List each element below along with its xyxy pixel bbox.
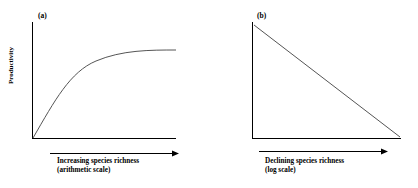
panel-a-caption: Increasing species richness (arithmetic …	[57, 157, 139, 175]
productivity-curve	[33, 50, 176, 138]
caption-line-2: (log scale)	[265, 166, 344, 175]
two-panel-figure: (a) Productivity Increasing species rich…	[0, 0, 418, 188]
panel-b-caption: Declining species richness (log scale)	[265, 157, 344, 175]
caption-line-1: Declining species richness	[265, 157, 344, 166]
panel-a: (a) Productivity Increasing species rich…	[0, 0, 209, 188]
panel-label-a: (a)	[38, 12, 47, 20]
increasing-richness-arrow	[50, 151, 179, 157]
caption-line-1: Increasing species richness	[57, 157, 139, 166]
panel-label-b: (b)	[257, 12, 266, 20]
panel-b: (b) Declining species richness (log scal…	[209, 0, 418, 188]
declining-richness-arrow	[259, 149, 388, 155]
y-axis-label: Productivity	[8, 38, 15, 94]
declining-line	[254, 25, 400, 137]
caption-line-2: (arithmetic scale)	[57, 166, 139, 175]
